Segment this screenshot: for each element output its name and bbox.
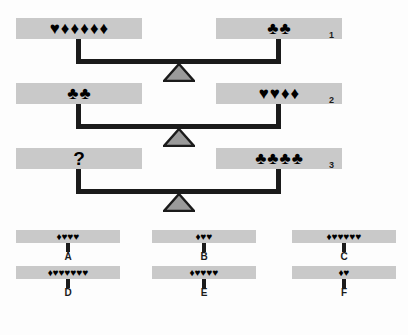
option-c-symbols — [327, 232, 362, 242]
diamond-icon — [291, 85, 300, 102]
answer-options: A D B E — [0, 228, 408, 308]
option-column-2: B E — [152, 228, 272, 308]
scale-3-right-pan-symbols — [255, 150, 303, 167]
scale-2-right-pan-symbols — [259, 85, 300, 102]
option-column-3: C F — [292, 228, 408, 308]
scale-2-right-hanger — [276, 104, 281, 126]
heart-icon — [259, 85, 269, 102]
scale-1-left-pan-symbols — [50, 20, 109, 37]
option-e[interactable]: E — [152, 266, 256, 300]
scale-1-left-pan[interactable] — [16, 18, 142, 39]
scale-3-left-pan-unknown[interactable] — [16, 148, 142, 169]
scale-1-number: 1 — [329, 30, 334, 40]
option-a-label: A — [16, 251, 120, 262]
heart-icon — [212, 268, 218, 278]
heart-icon — [82, 268, 88, 278]
option-d-label: D — [16, 287, 120, 298]
heart-icon — [207, 232, 213, 242]
balance-scale-2: 2 — [0, 79, 408, 147]
option-b-label: B — [152, 251, 256, 262]
club-icon — [67, 85, 78, 102]
diamond-icon — [61, 20, 70, 37]
scale-3-left-hanger — [76, 169, 81, 191]
scale-3-number: 3 — [329, 160, 334, 170]
balance-puzzle: 1 2 3 — [0, 0, 408, 335]
scale-3-fulcrum-triangle-icon — [163, 193, 195, 212]
club-icon — [292, 150, 303, 167]
option-f[interactable]: F — [292, 266, 396, 300]
diamond-icon — [100, 20, 109, 37]
scale-1-left-hanger — [76, 39, 81, 61]
balance-scale-1: 1 — [0, 14, 408, 82]
heart-icon — [50, 20, 60, 37]
scale-3-right-pan[interactable] — [216, 148, 342, 169]
scale-2-left-pan[interactable] — [16, 83, 142, 104]
option-a[interactable]: A — [16, 230, 120, 264]
option-e-label: E — [152, 287, 256, 298]
option-c[interactable]: C — [292, 230, 396, 264]
scale-1-right-hanger — [276, 39, 281, 61]
scale-2-left-pan-symbols — [67, 85, 90, 102]
option-f-pan — [292, 266, 396, 279]
diamond-icon — [90, 20, 99, 37]
option-a-pan — [16, 230, 120, 243]
option-c-pan — [292, 230, 396, 243]
option-d-pan — [16, 266, 120, 279]
option-c-label: C — [292, 251, 396, 262]
scale-2-left-hanger — [76, 104, 81, 126]
scale-2-right-pan[interactable] — [216, 83, 342, 104]
scale-3-left-pan-symbols — [73, 149, 85, 168]
scale-3-right-hanger — [276, 169, 281, 191]
heart-icon — [344, 268, 350, 278]
heart-icon — [270, 85, 280, 102]
unknown-icon — [73, 149, 85, 168]
diamond-icon — [80, 20, 89, 37]
club-icon — [267, 20, 278, 37]
option-d-symbols — [48, 268, 89, 278]
scale-2-number: 2 — [329, 95, 334, 105]
option-e-symbols — [190, 268, 219, 278]
club-icon — [280, 20, 291, 37]
scale-1-right-pan-symbols — [267, 20, 290, 37]
club-icon — [267, 150, 278, 167]
option-a-symbols — [57, 232, 80, 242]
club-icon — [280, 150, 291, 167]
diamond-icon — [281, 85, 290, 102]
club-icon — [255, 150, 266, 167]
heart-icon — [355, 232, 361, 242]
diamond-icon — [71, 20, 80, 37]
heart-icon — [74, 232, 80, 242]
option-b-pan — [152, 230, 256, 243]
option-e-pan — [152, 266, 256, 279]
club-icon — [80, 85, 91, 102]
option-f-label: F — [292, 287, 396, 298]
option-d[interactable]: D — [16, 266, 120, 300]
option-f-symbols — [338, 268, 349, 278]
balance-scale-3: 3 — [0, 144, 408, 212]
option-b-symbols — [196, 232, 213, 242]
option-b[interactable]: B — [152, 230, 256, 264]
scale-1-right-pan[interactable] — [216, 18, 342, 39]
option-column-1: A D — [16, 228, 136, 308]
